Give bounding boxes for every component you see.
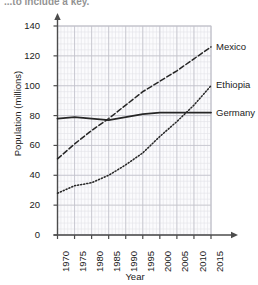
y-axis-title: Population (millions)	[12, 56, 23, 172]
population-line-chart: ...to include a key. 140120100806040200 …	[0, 0, 258, 285]
x-tick-label: 2015	[215, 251, 225, 272]
x-tick-label: 1970	[61, 251, 71, 272]
x-axis-title: Year	[58, 271, 212, 282]
x-tick-label: 2010	[198, 251, 208, 272]
x-tick-label: 1995	[146, 251, 156, 272]
x-tick-label: 1985	[112, 251, 122, 272]
x-tick-label: 2005	[180, 251, 190, 272]
y-tick-label: 20	[14, 200, 40, 210]
y-tick-label: 40	[14, 170, 40, 180]
plot-background	[58, 26, 212, 235]
x-tick-label: 1980	[95, 251, 105, 272]
x-axis-arrow-icon	[231, 232, 238, 238]
x-tick-label: 1975	[78, 251, 88, 272]
series-label-ethiopia: Ethiopia	[216, 80, 250, 90]
series-label-mexico: Mexico	[216, 42, 246, 52]
y-tick-label: 0	[14, 230, 40, 240]
y-axis-arrow-icon	[54, 13, 60, 20]
x-tick-label: 2000	[163, 251, 173, 272]
y-tick-label: 140	[14, 21, 40, 31]
x-tick-label: 1990	[129, 251, 139, 272]
series-label-germany: Germany	[216, 108, 255, 118]
